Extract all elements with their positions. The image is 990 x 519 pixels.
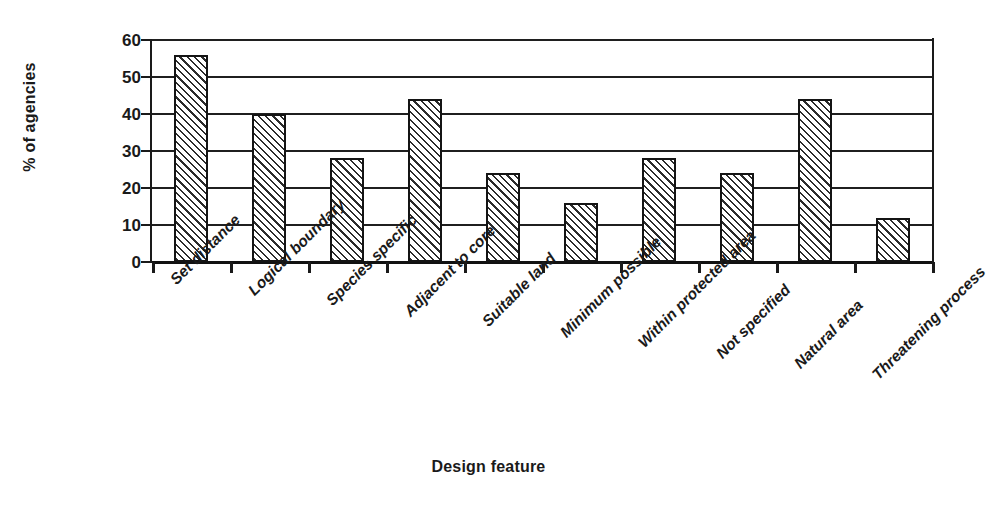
bar bbox=[564, 203, 598, 262]
x-tick-mark bbox=[386, 262, 389, 273]
bar bbox=[876, 218, 910, 262]
bar bbox=[408, 99, 442, 262]
y-axis-tick-label-group: 0102030405060 bbox=[95, 40, 141, 262]
bar-slot bbox=[776, 40, 854, 262]
x-tick-mark bbox=[776, 262, 779, 273]
y-tick-label-10: 10 bbox=[95, 217, 141, 234]
y-tick-mark-10 bbox=[141, 224, 152, 227]
y-tick-mark-20 bbox=[141, 187, 152, 190]
y-tick-label-30: 30 bbox=[95, 143, 141, 160]
plot-area bbox=[150, 40, 932, 262]
y-tick-mark-30 bbox=[141, 150, 152, 153]
bar bbox=[174, 55, 208, 262]
y-tick-mark-40 bbox=[141, 113, 152, 116]
y-tick-label-0: 0 bbox=[95, 254, 141, 271]
x-tick-mark bbox=[230, 262, 233, 273]
y-tick-mark-60 bbox=[141, 39, 152, 42]
bar-slot bbox=[230, 40, 308, 262]
x-tick-mark bbox=[152, 262, 155, 273]
x-tick-label: Natural area bbox=[791, 296, 867, 372]
y-tick-mark-50 bbox=[141, 76, 152, 79]
x-axis-title: Design feature bbox=[0, 458, 977, 476]
y-tick-label-50: 50 bbox=[95, 69, 141, 86]
x-tick-label: Threatening process bbox=[869, 262, 990, 383]
y-tick-label-60: 60 bbox=[95, 32, 141, 49]
bar bbox=[798, 99, 832, 262]
y-tick-label-20: 20 bbox=[95, 180, 141, 197]
bar-slot bbox=[854, 40, 932, 262]
y-axis-title: % of agencies bbox=[21, 27, 39, 207]
bar-slot bbox=[620, 40, 698, 262]
y-tick-label-40: 40 bbox=[95, 106, 141, 123]
x-tick-mark bbox=[854, 262, 857, 273]
bar-slot bbox=[464, 40, 542, 262]
x-tick-mark bbox=[932, 262, 935, 273]
x-tick-label: Not specified bbox=[713, 280, 795, 362]
x-axis-tick-label-group: Set distanceLogical boundarySpecies spec… bbox=[150, 273, 950, 448]
y-tick-mark-0 bbox=[141, 261, 152, 264]
bar bbox=[486, 173, 520, 262]
bar-group bbox=[152, 40, 932, 262]
bar bbox=[252, 114, 286, 262]
bar-slot bbox=[698, 40, 776, 262]
x-tick-mark bbox=[308, 262, 311, 273]
bar-slot bbox=[542, 40, 620, 262]
